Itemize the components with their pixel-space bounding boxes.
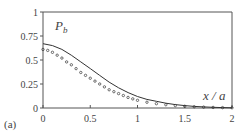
y-tick-label: 0.5	[26, 55, 39, 66]
x-axis-label: x / a	[202, 88, 226, 103]
data-marker	[47, 49, 49, 51]
data-marker	[70, 64, 72, 66]
data-marker	[84, 74, 86, 76]
data-marker	[61, 57, 63, 59]
y-tick-label: 0.25	[21, 79, 39, 90]
x-tick-label: 1	[135, 113, 140, 124]
data-marker	[165, 104, 167, 106]
data-marker	[99, 83, 101, 85]
x-tick-label: 0.5	[84, 113, 97, 124]
data-marker	[127, 96, 129, 98]
x-tick-label: 0	[41, 113, 46, 124]
data-marker	[136, 99, 138, 101]
data-marker	[89, 77, 91, 79]
data-marker	[56, 54, 58, 56]
x-tick-label: 1.5	[179, 113, 192, 124]
y-axis-label: Pb	[54, 18, 68, 35]
y-tick-label: 0.75	[21, 31, 39, 42]
panel-label: (a)	[4, 118, 17, 131]
data-marker	[75, 67, 77, 69]
data-marker	[103, 86, 105, 88]
y-tick-label: 1	[33, 7, 38, 18]
y-tick-label: 0	[33, 103, 38, 114]
data-marker	[65, 61, 67, 63]
data-marker	[80, 71, 82, 73]
data-marker	[155, 102, 157, 104]
data-marker	[122, 94, 124, 96]
data-marker	[132, 98, 134, 100]
chart: 00.250.50.751 00.511.52 Pb x / a (a)	[0, 0, 245, 137]
data-marker	[117, 92, 119, 94]
x-tick-label: 2	[230, 113, 235, 124]
data-marker	[94, 80, 96, 82]
data-marker	[146, 101, 148, 103]
data-marker	[113, 90, 115, 92]
data-marker	[51, 51, 53, 53]
y-axis-ticks: 00.250.50.751	[21, 7, 44, 114]
data-marker	[108, 89, 110, 91]
